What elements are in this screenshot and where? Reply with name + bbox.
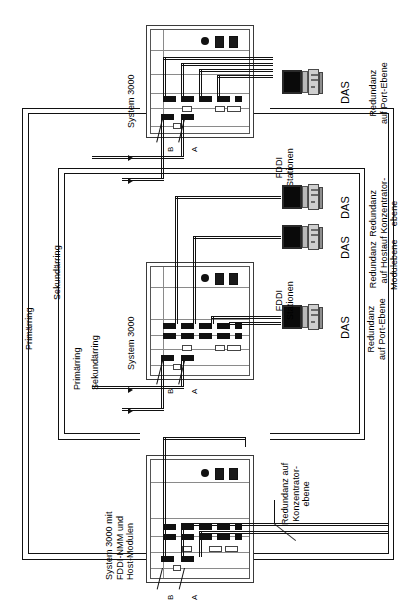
cable-station4b-h [229, 322, 281, 323]
chassis-bottom-slot-3 [225, 546, 238, 552]
cable-top-2h [181, 63, 273, 64]
cable-station4-h [211, 316, 281, 317]
workstation-icon-das-port-ebene[interactable] [282, 70, 324, 96]
cable-bot-up-1h2 [163, 439, 245, 440]
cable-mid-b-down2 [163, 361, 164, 409]
cable-mid-a-down2 [183, 361, 184, 387]
chassis-bottom-slot-ab [173, 565, 181, 571]
cable-station4b-v [229, 322, 230, 324]
chassis-bottom-label-a: A [190, 595, 201, 600]
cable-station3-v2 [195, 236, 196, 324]
cable-station3-h [193, 236, 281, 237]
chassis-top-label-b: B [166, 147, 177, 152]
chassis-bottom-port-l4[interactable] [217, 534, 230, 540]
workstation-icon-das-host-modulebene[interactable] [282, 225, 324, 251]
chassis-middle-port-l4[interactable] [217, 333, 230, 339]
cable-bot-up-1b [165, 437, 166, 557]
tower-unit [308, 184, 319, 210]
cable-bot-up-1r [245, 437, 246, 447]
cable-mid-a-down [181, 361, 182, 387]
cable-top-2 [181, 63, 182, 97]
station-caption-das-port-ebene: Redundanz auf Port-Ebene [368, 62, 389, 124]
ring-label-outer-primary: Primärring [24, 307, 35, 350]
cable-bot-up-3b [201, 531, 202, 557]
station-caption-das-konzentrator-ebene: Redundanz auf Konzentrator- ebene [368, 178, 400, 249]
cable-top-4hb [217, 77, 273, 78]
cable-top-1hb [163, 59, 273, 60]
chassis-middle-led-2 [229, 273, 238, 285]
fddi-topology-diagram: Primärring Sekundärring Primärring Sekun… [0, 0, 415, 614]
monitor-stand [319, 307, 323, 329]
chassis-top-led-2 [229, 36, 238, 48]
annotation-konzentrator-redundanz: Redundanz auf Konzentrator- ebene [280, 463, 312, 525]
station-caption-das-port-ebene-2: Redundanz auf Port-Ebene [366, 298, 387, 360]
station-type-das-port-ebene: DAS [340, 81, 351, 104]
chassis-middle-label-b: B [166, 389, 177, 394]
cable-top-1 [163, 57, 164, 97]
chassis-middle-port-l5[interactable] [235, 333, 242, 339]
chassis-bottom-label-b: B [166, 595, 177, 600]
cable-station2-v2 [177, 196, 178, 324]
chassis-title-middle: System 3000 [126, 316, 137, 370]
chassis-bottom-led-1 [215, 468, 224, 480]
ring-label-outer-secondary: Sekundärring [52, 245, 63, 300]
cable-bot-up-1 [163, 437, 164, 557]
station-type-das-konzentrator-ebene: DAS [340, 196, 351, 219]
station-type-das-port-ebene-2: DAS [340, 316, 351, 339]
monitor-screen [282, 185, 302, 209]
monitor-stand [319, 227, 323, 249]
cable-top-3b [201, 69, 202, 97]
chassis-middle-port-l2[interactable] [181, 333, 194, 339]
chassis-middle-slot-ab [173, 364, 181, 370]
cable-bot-up-2 [181, 523, 182, 557]
cable-station3-v [193, 236, 194, 324]
cable-top-1h [163, 57, 273, 58]
cable-station4b-h2 [229, 324, 281, 325]
cable-mid-a-join2 [92, 388, 184, 389]
chassis-middle-port-l3[interactable] [199, 333, 212, 339]
chassis-middle-slot-2 [215, 345, 225, 351]
cable-bot-up-2h [181, 523, 389, 524]
station-caption-das-host-modulebene: Redundanz auf Host- Modulebene [368, 239, 400, 290]
cable-bot-up-1h [163, 437, 245, 438]
chassis-top-led-1 [215, 36, 224, 48]
cable-mid-b-join2 [122, 410, 164, 411]
cable-bot-up-3h2 [199, 533, 389, 534]
cable-top-2b [183, 63, 184, 97]
cable-top-a-join [92, 156, 184, 157]
cable-bot-up-3 [199, 531, 200, 557]
cable-top-2hb [181, 65, 273, 66]
cable-top-b-join2 [122, 180, 164, 181]
cable-top-b-down2 [163, 119, 164, 179]
chassis-top-slot-2 [215, 106, 225, 112]
monitor-stand [319, 187, 323, 209]
cable-bot-up-3h [199, 531, 389, 532]
tower-unit [308, 304, 319, 330]
chassis-bottom-port-l5[interactable] [235, 534, 242, 540]
chassis-title-top: System 3000 [126, 74, 137, 128]
chassis-bottom-led-2 [229, 468, 238, 480]
chassis-middle-slot-3 [227, 345, 241, 351]
cable-bot-up-2b [183, 523, 184, 557]
monitor-screen [282, 225, 302, 249]
cable-station2-v [175, 196, 176, 324]
station-type-das-host-modulebene: DAS [340, 236, 351, 259]
chassis-middle-port-l1[interactable] [163, 333, 176, 339]
workstation-icon-das-konzentrator-ebene[interactable] [282, 185, 324, 211]
cable-mid-b-join [122, 408, 164, 409]
cable-station4-h2 [211, 318, 281, 319]
chassis-top-slot-3 [227, 106, 241, 112]
chassis-top-slot-1 [182, 106, 192, 112]
cable-top-3 [199, 69, 200, 97]
chassis-middle-led-0 [201, 274, 209, 282]
chassis-top-slot-ab [173, 123, 181, 129]
chassis-title-bottom: System 3000 mit FDDI-NMM und Host-Module… [104, 511, 136, 580]
cable-top-4 [217, 75, 218, 97]
chassis-top-led-0 [201, 37, 209, 45]
chassis-top-port-5[interactable] [235, 96, 242, 102]
chassis-middle-slot-1 [182, 345, 192, 351]
group-label-fddi-stationen-top: FDDI Stationen [274, 148, 295, 187]
cable-top-a-down2 [183, 119, 184, 157]
ring-label-inner-secondary: Sekundärring [90, 335, 101, 390]
cable-mid-a-join [92, 386, 184, 387]
